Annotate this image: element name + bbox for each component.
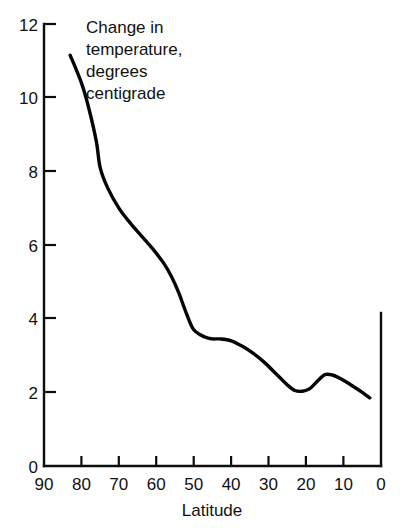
x-tick-label-60: 60 — [147, 475, 166, 494]
y-tick-label-8: 8 — [29, 163, 38, 182]
x-tick-label-30: 30 — [259, 475, 278, 494]
x-tick-label-70: 70 — [109, 475, 128, 494]
annotation-line-4: centigrade — [86, 84, 165, 103]
x-tick-label-10: 10 — [334, 475, 353, 494]
y-tick-label-4: 4 — [29, 310, 38, 329]
x-tick-label-20: 20 — [296, 475, 315, 494]
y-axis-ticks — [44, 24, 56, 392]
x-axis-ticks — [81, 456, 343, 466]
x-axis-title: Latitude — [182, 501, 243, 520]
y-axis-tick-labels: 12 10 8 6 4 2 0 — [19, 16, 38, 477]
chart-annotation: Change in temperature, degrees centigrad… — [86, 18, 182, 103]
chart-container: 12 10 8 6 4 2 0 90 80 70 60 50 40 — [0, 0, 404, 528]
x-tick-label-40: 40 — [222, 475, 241, 494]
x-tick-label-80: 80 — [72, 475, 91, 494]
line-chart: 12 10 8 6 4 2 0 90 80 70 60 50 40 — [0, 0, 404, 528]
annotation-line-3: degrees — [86, 62, 147, 81]
x-tick-label-0: 0 — [376, 475, 385, 494]
y-tick-label-2: 2 — [29, 384, 38, 403]
x-tick-label-90: 90 — [35, 475, 54, 494]
data-series-line — [70, 55, 370, 398]
x-tick-label-50: 50 — [184, 475, 203, 494]
x-axis-tick-labels: 90 80 70 60 50 40 30 20 10 0 — [35, 475, 386, 494]
annotation-line-1: Change in — [86, 18, 164, 37]
y-tick-label-10: 10 — [19, 89, 38, 108]
y-tick-label-6: 6 — [29, 237, 38, 256]
annotation-line-2: temperature, — [86, 40, 182, 59]
y-tick-label-12: 12 — [19, 16, 38, 35]
